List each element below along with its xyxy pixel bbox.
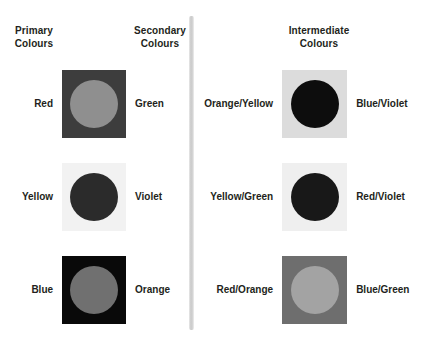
label-red-orange: Red/Orange bbox=[200, 284, 282, 296]
label-red: Red bbox=[0, 98, 62, 110]
colour-relationships-diagram: Primary Colours Secondary Colours Interm… bbox=[0, 0, 433, 342]
label-yellow: Yellow bbox=[0, 191, 62, 203]
swatch-yellowgreen-redviolet bbox=[282, 163, 347, 231]
label-blue: Blue bbox=[0, 284, 62, 296]
heading-secondary-colours: Secondary Colours bbox=[126, 24, 194, 50]
swatch-row-yellow-violet: Yellow Violet bbox=[0, 163, 189, 231]
heading-intermediate-colours: Intermediate Colours bbox=[271, 24, 367, 50]
label-blue-green: Blue/Green bbox=[347, 284, 433, 296]
label-violet: Violet bbox=[126, 191, 189, 203]
label-green: Green bbox=[126, 98, 189, 110]
vertical-divider bbox=[189, 16, 194, 330]
swatch-circle-red-violet bbox=[291, 173, 339, 221]
label-blue-violet: Blue/Violet bbox=[347, 98, 433, 110]
swatch-row-redorange-bluegreen: Red/Orange Blue/Green bbox=[200, 256, 433, 324]
swatch-red-green bbox=[62, 70, 126, 138]
heading-primary-colours: Primary Colours bbox=[0, 24, 68, 50]
swatch-circle-green bbox=[70, 80, 118, 128]
swatch-row-blue-orange: Blue Orange bbox=[0, 256, 189, 324]
swatch-row-yellowgreen-redviolet: Yellow/Green Red/Violet bbox=[200, 163, 433, 231]
label-orange-yellow: Orange/Yellow bbox=[200, 98, 282, 110]
swatch-row-orangeyellow-blueviolet: Orange/Yellow Blue/Violet bbox=[200, 70, 433, 138]
swatch-circle-blue-violet bbox=[291, 80, 339, 128]
swatch-redorange-bluegreen bbox=[282, 256, 347, 324]
swatch-circle-orange bbox=[70, 266, 118, 314]
swatch-orangeyellow-blueviolet bbox=[282, 70, 347, 138]
swatch-circle-violet bbox=[70, 173, 118, 221]
label-orange: Orange bbox=[126, 284, 189, 296]
swatch-row-red-green: Red Green bbox=[0, 70, 189, 138]
label-red-violet: Red/Violet bbox=[347, 191, 433, 203]
swatch-circle-blue-green bbox=[291, 266, 339, 314]
swatch-yellow-violet bbox=[62, 163, 126, 231]
label-yellow-green: Yellow/Green bbox=[200, 191, 282, 203]
swatch-blue-orange bbox=[62, 256, 126, 324]
